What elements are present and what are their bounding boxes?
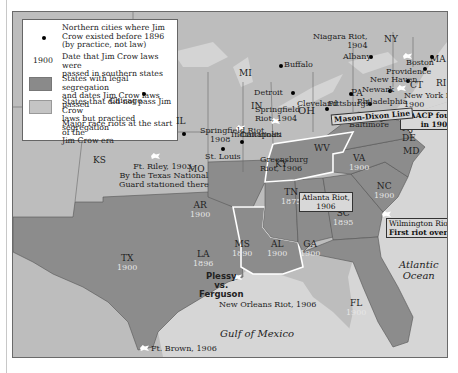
state-label-ar: AR1900 bbox=[190, 200, 210, 219]
state-label-va: VA1900 bbox=[349, 153, 369, 172]
map-legend: Northern cities where Jim Crow existed b… bbox=[22, 19, 178, 141]
riot-label-ft-riley: Ft. Riley, 1903:By the Texas NationalGua… bbox=[119, 162, 209, 189]
state-label-ri: RI bbox=[436, 78, 446, 88]
plessy-ferguson-annotation: Plessyvs.Ferguson bbox=[199, 272, 244, 299]
state-label-wv: WV bbox=[314, 143, 330, 153]
riot-label-wilmington: Wilmington Riot, 1898:First riot over Ji… bbox=[386, 218, 448, 238]
black-dot-icon bbox=[42, 36, 46, 40]
riot-label-greensburg: GreensburgRiot, 1906 bbox=[260, 155, 308, 173]
riot-label-springfield-il: Springfield Riot,1908 bbox=[200, 126, 267, 144]
page-margin-line bbox=[6, 0, 7, 373]
riot-label-new-orleans: New Orleans Riot, 1906 bbox=[219, 300, 316, 309]
city-dot-indianapolis bbox=[182, 132, 186, 136]
gulf-of-mexico-label: Gulf of Mexico bbox=[220, 328, 294, 339]
state-label-al: AL1900 bbox=[267, 239, 287, 258]
jim-crow-map: Northern cities where Jim Crow existed b… bbox=[12, 11, 448, 358]
state-label-de: DE bbox=[402, 133, 416, 143]
city-label-newark: Newark bbox=[362, 85, 394, 94]
city-label-boston: Boston bbox=[406, 58, 434, 67]
riot-label-new-york: New York Riot,1900 bbox=[404, 91, 448, 109]
year-symbol: 1900 bbox=[33, 56, 53, 65]
city-label-detroit: Detroit bbox=[254, 88, 283, 97]
city-dot-st-louis bbox=[221, 147, 225, 151]
city-label-new-haven: New Haven bbox=[370, 75, 417, 84]
state-label-fl: FL1900 bbox=[346, 298, 366, 317]
state-label-ks: KS bbox=[93, 155, 106, 165]
state-label-md: MD bbox=[403, 146, 419, 156]
state-label-ny: NY bbox=[384, 34, 398, 44]
state-label-nc: NC1900 bbox=[374, 181, 394, 200]
light-swatch-icon bbox=[29, 100, 52, 114]
state-label-ga: GA1900 bbox=[300, 239, 320, 258]
city-label-buffalo: Buffalo bbox=[284, 60, 313, 69]
riot-label-atlanta: Atlanta Riot,1906 bbox=[299, 192, 353, 212]
state-label-tx: TX1900 bbox=[117, 253, 137, 272]
riot-label-ft-brown: Ft. Brown, 1906 bbox=[151, 344, 217, 353]
city-dot-cleveland bbox=[349, 92, 353, 96]
city-dot-chicago bbox=[142, 92, 146, 96]
riot-label-springfield-oh: SpringfieldRiot, 1904 bbox=[255, 105, 300, 123]
state-label-il: IL bbox=[176, 116, 186, 126]
riot-icon bbox=[37, 123, 46, 129]
city-label-cleveland: Cleveland bbox=[297, 99, 337, 108]
city-label-albany: Albany bbox=[343, 52, 371, 61]
city-label-chicago: Chicago bbox=[109, 96, 142, 105]
riot-label-niagara: Niagara Riot,1904 bbox=[313, 32, 368, 50]
state-label-mi: MI bbox=[239, 68, 252, 78]
city-label-st-louis: St. Louis bbox=[205, 152, 241, 161]
state-label-la: LA1896 bbox=[193, 249, 213, 268]
city-dot-detroit bbox=[291, 91, 295, 95]
city-dot-buffalo bbox=[279, 64, 283, 68]
atlantic-ocean-label: AtlanticOcean bbox=[399, 259, 438, 281]
state-label-ms: MS1890 bbox=[232, 239, 252, 258]
dark-swatch-icon bbox=[29, 77, 52, 91]
